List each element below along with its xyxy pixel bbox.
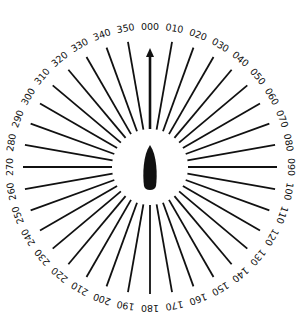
bearing-label-320: 320 bbox=[49, 49, 70, 69]
bearing-label-000: 000 bbox=[141, 21, 159, 32]
bearing-label-060: 060 bbox=[263, 86, 282, 107]
bearing-label-010: 010 bbox=[165, 21, 185, 35]
bearing-label-150: 150 bbox=[210, 280, 231, 299]
bearing-label-200: 200 bbox=[91, 291, 112, 308]
bearing-tick-280 bbox=[25, 145, 113, 160]
bearing-tick-320 bbox=[68, 70, 125, 138]
bearing-label-350: 350 bbox=[116, 21, 136, 35]
arrow-up-icon bbox=[146, 48, 154, 57]
heading-arrow bbox=[146, 48, 154, 129]
bearing-tick-310 bbox=[53, 85, 121, 142]
bearing-tick-140 bbox=[174, 196, 231, 264]
bearing-label-280: 280 bbox=[4, 133, 18, 153]
bearing-tick-170 bbox=[157, 204, 172, 292]
bearing-label-120: 120 bbox=[263, 227, 282, 248]
bearing-tick-220 bbox=[68, 196, 125, 264]
bearing-label-080: 080 bbox=[282, 133, 296, 153]
bearing-tick-080 bbox=[187, 145, 275, 160]
bearing-label-230: 230 bbox=[32, 247, 52, 268]
bearing-label-210: 210 bbox=[69, 280, 90, 299]
bearing-label-170: 170 bbox=[165, 299, 185, 313]
bearing-label-110: 110 bbox=[274, 205, 291, 226]
bearing-tick-190 bbox=[128, 204, 143, 292]
bearing-label-030: 030 bbox=[210, 36, 231, 55]
bearing-label-190: 190 bbox=[116, 299, 136, 313]
bearing-tick-230 bbox=[53, 191, 121, 248]
bearing-label-040: 040 bbox=[230, 49, 251, 69]
bearing-label-070: 070 bbox=[274, 108, 291, 129]
bearing-label-130: 130 bbox=[248, 247, 268, 268]
bearing-label-290: 290 bbox=[9, 108, 26, 129]
ship-silhouette-icon bbox=[143, 145, 156, 190]
bearing-label-270: 270 bbox=[4, 158, 15, 176]
bearing-tick-040 bbox=[174, 70, 231, 138]
bearing-label-330: 330 bbox=[69, 36, 90, 55]
bearing-label-310: 310 bbox=[32, 66, 52, 87]
bearing-label-140: 140 bbox=[230, 265, 251, 285]
bearing-label-340: 340 bbox=[91, 26, 112, 43]
bearing-tick-260 bbox=[25, 174, 113, 189]
bearing-label-220: 220 bbox=[49, 265, 70, 285]
bearing-label-250: 250 bbox=[9, 205, 26, 226]
bearing-label-090: 090 bbox=[286, 158, 297, 176]
bearing-label-050: 050 bbox=[248, 66, 268, 87]
bearing-label-020: 020 bbox=[188, 26, 209, 43]
bearing-tick-100 bbox=[187, 174, 275, 189]
bearing-label-160: 160 bbox=[188, 291, 209, 308]
bearing-label-300: 300 bbox=[19, 86, 38, 107]
bearing-tick-350 bbox=[128, 42, 143, 130]
compass-rose-diagram: 0000100200300400500600700800901001101201… bbox=[0, 0, 301, 322]
bearing-tick-010 bbox=[157, 42, 172, 130]
bearing-label-100: 100 bbox=[282, 182, 296, 202]
bearing-label-180: 180 bbox=[141, 303, 159, 314]
bearing-tick-130 bbox=[179, 191, 247, 248]
bearing-label-260: 260 bbox=[4, 182, 18, 202]
bearing-label-240: 240 bbox=[19, 227, 38, 248]
bearing-tick-050 bbox=[179, 85, 247, 142]
